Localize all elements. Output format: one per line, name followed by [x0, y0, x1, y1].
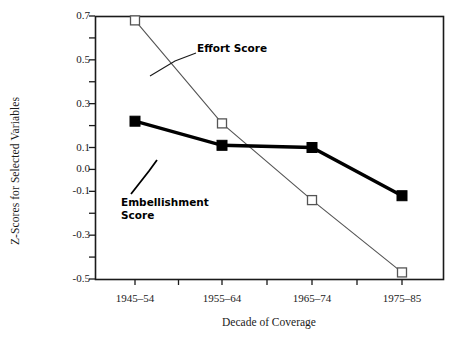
data-point-marker: [397, 191, 407, 201]
data-point-marker: [131, 16, 140, 25]
data-point-marker: [308, 196, 317, 205]
x-axis-tick-label: 1975–85: [383, 292, 422, 304]
data-point-marker: [217, 140, 227, 150]
series-label-line: Embellishment: [121, 196, 209, 209]
series-label-effort-score: Effort Score: [197, 42, 267, 55]
data-point-marker: [218, 119, 227, 128]
series-label-line: Score: [121, 209, 209, 222]
x-axis-title: Decade of Coverage: [95, 316, 443, 328]
data-point-marker: [398, 268, 407, 277]
x-axis-tick-label: 1965–74: [293, 292, 332, 304]
x-axis-tick-label: 1955–64: [203, 292, 242, 304]
data-point-marker: [130, 116, 140, 126]
x-axis-tick-label: 1945–54: [116, 292, 155, 304]
series-label-embellishment-score: EmbellishmentScore: [121, 196, 209, 221]
chart-figure: Z-Scores for Selected Variables 0.70.50.…: [0, 0, 465, 342]
data-point-marker: [307, 143, 317, 153]
series-label-line: Effort Score: [197, 42, 267, 55]
